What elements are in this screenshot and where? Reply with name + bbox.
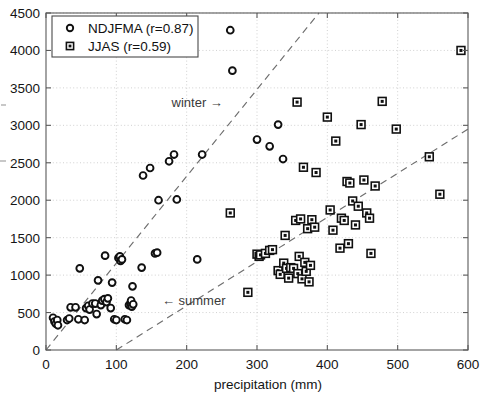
data-point-ndjfma	[254, 136, 261, 143]
data-point-jjas-center	[374, 184, 377, 187]
data-point-ndjfma	[130, 301, 137, 308]
x-tick-label: 600	[457, 357, 480, 372]
data-point-jjas-center	[428, 155, 431, 158]
x-tick-label: 100	[105, 357, 128, 372]
data-point-jjas-center	[395, 128, 398, 131]
data-point-jjas-center	[329, 208, 332, 211]
legend-label: JJAS (r=0.59)	[88, 39, 171, 54]
y-tick-label: 3500	[10, 81, 40, 96]
y-tick-label: 2500	[10, 156, 40, 171]
data-point-ndjfma	[93, 311, 100, 318]
data-point-jjas-center	[298, 255, 301, 258]
data-point-ndjfma	[76, 265, 83, 272]
data-point-ndjfma	[229, 67, 236, 74]
x-tick-label: 500	[386, 357, 409, 372]
data-point-ndjfma	[154, 249, 161, 256]
figure-background	[0, 0, 488, 395]
data-point-jjas-center	[284, 234, 287, 237]
data-point-jjas-center	[246, 291, 249, 294]
data-point-ndjfma	[102, 252, 109, 259]
data-point-ndjfma	[66, 315, 73, 322]
data-point-jjas-center	[334, 140, 337, 143]
data-point-ndjfma	[104, 295, 111, 302]
data-point-ndjfma	[55, 322, 62, 329]
data-point-ndjfma	[129, 283, 136, 290]
data-point-ndjfma	[95, 277, 102, 284]
summer-annotation: ← summer	[162, 293, 226, 308]
data-point-jjas-center	[360, 123, 363, 126]
data-point-jjas-center	[229, 211, 232, 214]
y-tick-label: 0	[32, 343, 40, 358]
data-point-ndjfma	[140, 172, 147, 179]
data-point-ndjfma	[266, 143, 273, 150]
x-tick-label: 0	[42, 357, 50, 372]
data-point-ndjfma	[109, 279, 116, 286]
data-point-jjas-center	[347, 242, 350, 245]
data-point-jjas-center	[368, 217, 371, 220]
y-tick-label: 1000	[10, 268, 40, 283]
data-point-jjas-center	[354, 223, 357, 226]
data-point-ndjfma	[147, 165, 154, 172]
data-point-jjas-center	[315, 171, 318, 174]
data-point-jjas-center	[287, 277, 290, 280]
data-point-ndjfma	[155, 197, 162, 204]
y-tick-label: 4500	[10, 6, 40, 21]
data-point-ndjfma	[173, 196, 180, 203]
x-tick-label: 200	[175, 357, 198, 372]
data-point-ndjfma	[171, 151, 178, 158]
data-point-jjas-center	[308, 280, 311, 283]
data-point-jjas-center	[296, 101, 299, 104]
data-point-jjas-center	[357, 205, 360, 208]
data-point-jjas-center	[313, 226, 316, 229]
data-point-jjas-center	[271, 248, 274, 251]
data-point-ndjfma	[199, 151, 206, 158]
data-point-ndjfma	[123, 317, 130, 324]
data-point-ndjfma	[275, 121, 282, 128]
data-point-ndjfma	[81, 317, 88, 324]
data-point-ndjfma	[227, 27, 234, 34]
data-point-jjas-center	[279, 273, 282, 276]
y-tick-label: 500	[17, 306, 40, 321]
data-point-ndjfma	[194, 256, 201, 263]
data-point-jjas-center	[326, 116, 329, 119]
data-point-ndjfma	[113, 317, 120, 324]
y-tick-label: 1500	[10, 231, 40, 246]
data-point-jjas-center	[305, 270, 308, 273]
legend-marker-square-center	[69, 45, 72, 48]
data-point-jjas-center	[343, 219, 346, 222]
x-axis-title: precipitation (mm)	[214, 377, 322, 392]
data-point-jjas-center	[302, 166, 305, 169]
data-point-jjas-center	[310, 218, 313, 221]
data-point-jjas-center	[459, 49, 462, 52]
legend-marker-circle	[67, 25, 73, 31]
data-point-jjas-center	[301, 277, 304, 280]
data-point-jjas-center	[348, 181, 351, 184]
data-point-ndjfma	[166, 158, 173, 165]
data-point-jjas-center	[369, 252, 372, 255]
data-point-ndjfma	[138, 264, 145, 271]
data-point-ndjfma	[107, 305, 114, 312]
data-point-ndjfma	[280, 156, 287, 163]
data-point-jjas-center	[381, 100, 384, 103]
data-point-jjas-center	[362, 179, 365, 182]
data-point-jjas-center	[438, 193, 441, 196]
x-tick-label: 400	[316, 357, 339, 372]
data-point-ndjfma	[119, 256, 126, 263]
data-point-ndjfma	[72, 304, 79, 311]
data-point-jjas-center	[299, 217, 302, 220]
x-tick-label: 300	[246, 357, 269, 372]
plot-legend: NDJFMA (r=0.87)JJAS (r=0.59)	[52, 16, 198, 57]
data-point-jjas-center	[338, 247, 341, 250]
legend-label: NDJFMA (r=0.87)	[88, 21, 193, 36]
y-tick-label: 3000	[10, 118, 40, 133]
winter-annotation: winter →	[171, 95, 223, 110]
y-tick-label: 4000	[10, 43, 40, 58]
y-tick-label: 2000	[10, 193, 40, 208]
data-point-jjas-center	[306, 227, 309, 230]
data-point-jjas-center	[331, 229, 334, 232]
scatter-plot-figure: 0500100015002000250030003500400045000100…	[0, 0, 488, 395]
plot-canvas: 0500100015002000250030003500400045000100…	[0, 0, 488, 395]
data-point-jjas-center	[309, 264, 312, 267]
